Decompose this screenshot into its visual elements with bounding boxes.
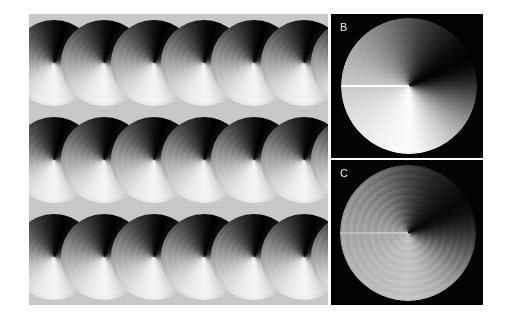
panel-c-label: C bbox=[340, 168, 348, 179]
tile-lattice bbox=[29, 14, 328, 305]
panel-b-label: B bbox=[340, 22, 348, 33]
panel-a: A bbox=[29, 14, 328, 305]
branch-cut-b bbox=[341, 85, 409, 87]
panel-b: B bbox=[331, 14, 483, 158]
branch-cut-c bbox=[340, 232, 408, 234]
figure-canvas: A B C bbox=[0, 0, 511, 323]
panel-c: C bbox=[331, 160, 483, 305]
